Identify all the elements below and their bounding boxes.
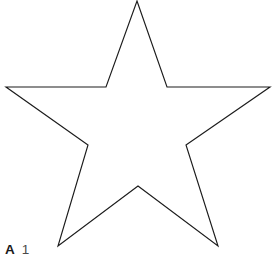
star-figure-canvas bbox=[0, 0, 275, 264]
figure-caption: A 1 bbox=[5, 243, 29, 257]
caption-panel-letter: A bbox=[5, 243, 15, 257]
caption-figure-number: 1 bbox=[22, 243, 30, 257]
canvas-background bbox=[0, 0, 275, 264]
figure-container: A 1 bbox=[0, 0, 275, 264]
